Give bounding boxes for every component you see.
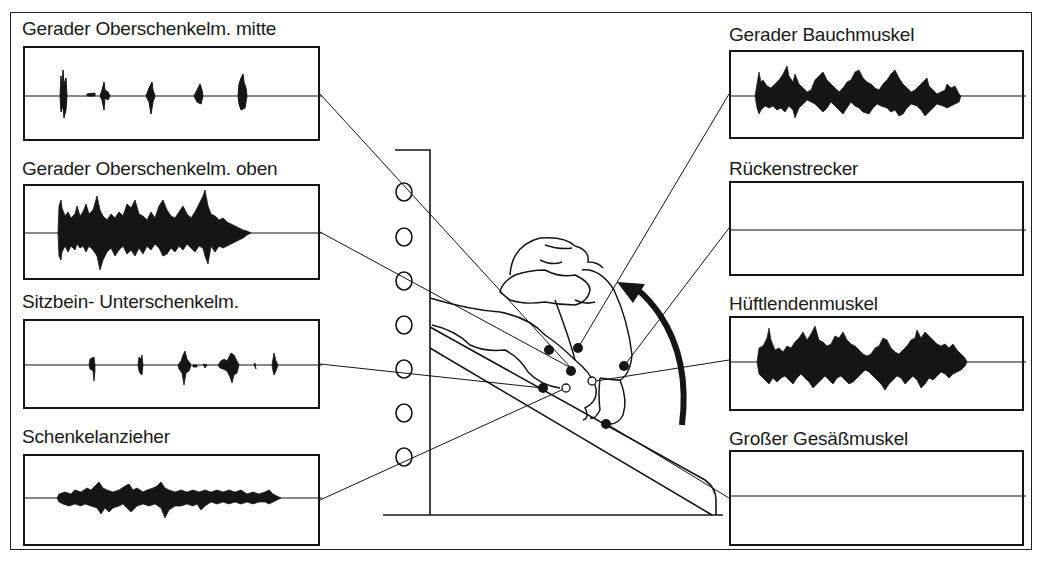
motion-arrow-icon — [617, 282, 684, 425]
person-legs — [430, 298, 596, 420]
leader-lines — [320, 94, 729, 500]
situp-scene-illustration — [0, 0, 1041, 563]
person-head-arms — [500, 238, 603, 305]
wall-bars — [395, 150, 430, 515]
